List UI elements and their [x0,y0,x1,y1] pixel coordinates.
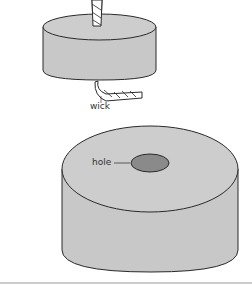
diagram-canvas [0,0,252,287]
label-wick: wick [90,102,110,111]
label-hole: hole [92,158,111,167]
top-cylinder-with-wick [43,0,156,103]
bottom-cylinder-with-hole [62,126,238,272]
